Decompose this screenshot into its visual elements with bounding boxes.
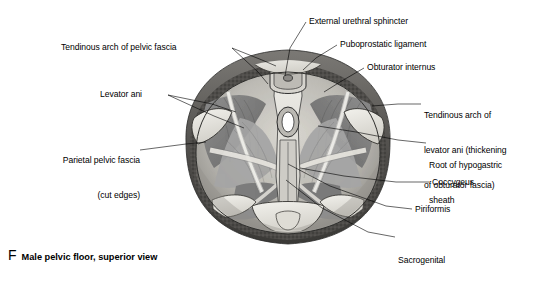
label-external-urethral-sphincter: External urethral sphincter xyxy=(309,16,408,28)
label-text: External urethral sphincter xyxy=(309,16,408,26)
label-obturator-internus: Obturator internus xyxy=(367,62,435,74)
figure-caption: F Male pelvic floor, superior view xyxy=(8,248,157,264)
label-parietal-pelvic-fascia: Parietal pelvic fascia (cut edges) xyxy=(31,132,140,225)
label-text-line-1: Tendinous arch of xyxy=(424,110,506,122)
label-text: Coccygeus xyxy=(432,177,474,187)
label-text: Levator ani xyxy=(100,89,142,99)
label-sacrogenital-ligament: Sacrogenital (rectoprostatic) ligament xyxy=(398,232,455,281)
label-text-line-1: Parietal pelvic fascia xyxy=(31,155,140,167)
label-text-line-1: Sacrogenital xyxy=(398,255,455,267)
label-levator-ani: Levator ani xyxy=(100,89,142,101)
panel-letter: F xyxy=(8,248,17,262)
label-text: Tendinous arch of pelvic fascia xyxy=(61,42,177,52)
label-puboprostatic-ligament: Puboprostatic ligament xyxy=(340,39,426,51)
anatomical-figure: Tendinous arch of pelvic fascia Levator … xyxy=(0,0,534,281)
label-text-line-2: (cut edges) xyxy=(31,190,140,202)
caption-text: Male pelvic floor, superior view xyxy=(22,250,158,264)
label-text-line-1: Root of hypogastric xyxy=(429,160,502,172)
label-text: Obturator internus xyxy=(367,62,435,72)
label-piriformis: Piriformis xyxy=(415,204,450,216)
label-text: Puboprostatic ligament xyxy=(340,39,426,49)
label-tendinous-arch-of-pelvic-fascia: Tendinous arch of pelvic fascia xyxy=(61,42,177,54)
label-coccygeus: Coccygeus xyxy=(432,177,474,189)
label-text: Piriformis xyxy=(415,204,450,214)
